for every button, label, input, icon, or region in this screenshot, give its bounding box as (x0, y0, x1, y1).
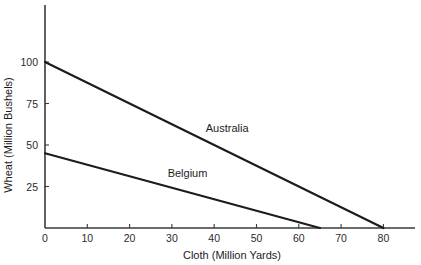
chart-canvas: 01020304050607080 255075100 AustraliaBel… (0, 0, 421, 265)
axes-group (45, 5, 415, 228)
y-tick-label: 75 (26, 98, 38, 110)
x-tick-label: 50 (251, 232, 263, 244)
series-label-belgium: Belgium (168, 167, 208, 179)
y-tick-label: 100 (20, 56, 38, 68)
y-axis-title: Wheat (Million Bushels) (2, 77, 14, 193)
x-tick-label: 30 (166, 232, 178, 244)
x-tick-label: 80 (378, 232, 390, 244)
x-tick-label: 40 (208, 232, 220, 244)
x-axis-ticks: 01020304050607080 (42, 224, 389, 244)
data-series-group (45, 62, 383, 228)
x-axis-title: Cloth (Million Yards) (183, 249, 281, 261)
x-tick-label: 20 (124, 232, 136, 244)
x-tick-label: 70 (335, 232, 347, 244)
series-labels-group: AustraliaBelgium (168, 122, 250, 179)
series-label-australia: Australia (206, 122, 250, 134)
x-tick-label: 0 (42, 232, 48, 244)
series-line-australia (45, 62, 383, 228)
production-possibility-chart: 01020304050607080 255075100 AustraliaBel… (0, 0, 421, 265)
y-tick-label: 50 (26, 139, 38, 151)
x-tick-label: 10 (81, 232, 93, 244)
series-line-belgium (45, 153, 320, 228)
x-tick-label: 60 (293, 232, 305, 244)
y-tick-label: 25 (26, 181, 38, 193)
